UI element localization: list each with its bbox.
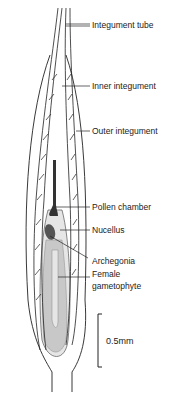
pollen-chamber: [49, 160, 58, 216]
label-inner-integument: Inner integument: [92, 81, 156, 91]
label-integument-tube: Integument tube: [92, 20, 153, 30]
label-archegonia: Archegonia: [92, 256, 135, 266]
label-nucellus: Nucellus: [92, 225, 125, 235]
scale-bar: [98, 314, 102, 367]
ovule-diagram: [0, 0, 186, 400]
label-outer-integument: Outer integument: [92, 126, 158, 136]
label-pollen-chamber: Pollen chamber: [92, 202, 151, 212]
label-gametophyte: gametophyte: [92, 281, 141, 291]
scale-bar-label: 0.5mm: [106, 336, 134, 346]
label-female: Female: [92, 269, 120, 279]
